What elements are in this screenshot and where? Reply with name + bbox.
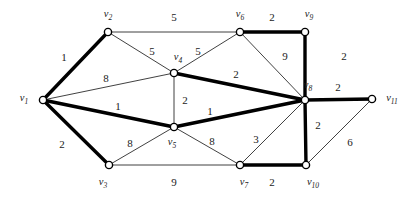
graph-edge-v8-v10 xyxy=(305,100,306,165)
vertex-label-v9: v9 xyxy=(305,9,313,22)
edge-weight-v7-v8: 3 xyxy=(253,134,259,145)
graph-node-v7 xyxy=(236,161,243,168)
graph-node-v11 xyxy=(368,95,375,102)
edge-weight-v8-v11: 2 xyxy=(335,82,341,93)
edge-weight-v7-v10: 2 xyxy=(269,177,275,188)
vertex-label-sub-v4: 4 xyxy=(178,56,182,65)
graph-node-v8 xyxy=(301,96,308,103)
graph-node-v10 xyxy=(302,161,309,168)
graph-edge-v4-v6 xyxy=(174,32,240,73)
graph-node-v2 xyxy=(104,28,111,35)
vertex-label-sub-v2: 2 xyxy=(108,13,112,22)
graph-canvas xyxy=(0,0,416,199)
edge-weight-v4-v8: 2 xyxy=(233,69,239,80)
edge-weight-v6-v9: 2 xyxy=(269,12,275,23)
edge-weight-v1-v4: 8 xyxy=(103,73,109,84)
edge-weight-v2-v4: 5 xyxy=(149,46,155,57)
edge-weight-v3-v5: 8 xyxy=(127,138,133,149)
vertex-label-v1: v1 xyxy=(20,93,28,106)
vertex-label-sub-v11: 11 xyxy=(391,97,398,106)
edge-weight-v1-v5: 1 xyxy=(115,101,121,112)
graph-edge-v4-v8 xyxy=(174,73,305,100)
vertex-label-v5: v5 xyxy=(168,137,176,150)
graph-node-v4 xyxy=(170,69,177,76)
edge-weight-v10-v11: 6 xyxy=(347,137,353,148)
graph-edge-v1-v3 xyxy=(43,100,109,165)
graph-edge-v1-v2 xyxy=(43,32,108,100)
vertex-label-v7: v7 xyxy=(240,177,248,190)
weighted-graph-figure: 181255895221829322226v1v2v3v4v5v6v7v8v9v… xyxy=(0,0,416,199)
edge-weight-v4-v6: 5 xyxy=(195,46,201,57)
graph-node-v3 xyxy=(105,161,112,168)
graph-edge-v3-v5 xyxy=(109,127,174,165)
vertex-label-v4: v4 xyxy=(174,52,182,65)
edge-weight-v5-v8: 1 xyxy=(207,106,213,117)
edge-weight-v2-v6: 5 xyxy=(171,12,177,23)
edge-weight-v8-v9: 2 xyxy=(341,51,347,62)
vertex-label-v6: v6 xyxy=(236,9,244,22)
vertex-label-sub-v7: 7 xyxy=(244,181,248,190)
edge-weight-v4-v5: 2 xyxy=(182,95,188,106)
vertex-label-sub-v3: 3 xyxy=(103,181,107,190)
vertex-label-v8: v8 xyxy=(304,80,312,93)
vertex-label-sub-v9: 9 xyxy=(309,13,313,22)
vertex-label-sub-v5: 5 xyxy=(172,141,176,150)
vertex-label-sub-v1: 1 xyxy=(24,97,28,106)
vertex-label-v11: v11 xyxy=(386,93,398,106)
edge-weight-v5-v7: 8 xyxy=(209,136,215,147)
graph-edge-v1-v5 xyxy=(43,100,174,127)
vertex-label-sub-v8: 8 xyxy=(308,84,312,93)
graph-edge-v5-v8 xyxy=(174,100,305,127)
graph-edge-v5-v7 xyxy=(174,127,240,165)
edge-weight-v3-v7: 9 xyxy=(171,177,177,188)
vertex-label-sub-v10: 10 xyxy=(312,181,320,190)
graph-node-v9 xyxy=(301,28,308,35)
graph-node-v5 xyxy=(170,123,177,130)
graph-edge-v2-v4 xyxy=(108,32,174,73)
vertex-label-sub-v6: 6 xyxy=(240,13,244,22)
graph-node-v6 xyxy=(236,28,243,35)
graph-node-v1 xyxy=(39,96,46,103)
vertex-label-v10: v10 xyxy=(307,177,319,190)
edge-weight-v6-v8: 9 xyxy=(282,51,288,62)
vertex-label-v2: v2 xyxy=(104,9,112,22)
edge-weight-v1-v3: 2 xyxy=(59,139,65,150)
graph-edge-v10-v11 xyxy=(306,99,372,165)
edge-weight-v8-v10: 2 xyxy=(315,120,321,131)
graph-edge-v8-v11 xyxy=(305,99,372,100)
edge-weight-v1-v2: 1 xyxy=(61,52,67,63)
vertex-label-v3: v3 xyxy=(99,177,107,190)
